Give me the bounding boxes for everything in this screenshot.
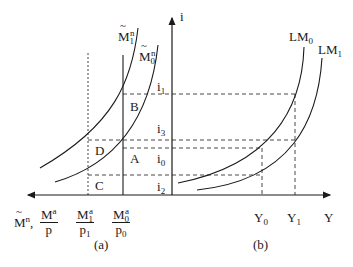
i-sub: 1	[161, 86, 166, 96]
label-i2: i2	[157, 180, 165, 193]
tick-num-sup: a	[89, 206, 93, 216]
label-lm0: LM0	[289, 30, 313, 43]
nominal-money-sup: n	[26, 214, 31, 224]
i-sub: 0	[161, 158, 166, 168]
label-i1: i1	[157, 80, 165, 93]
curve-base: LM	[318, 42, 338, 57]
i-sub: 3	[161, 128, 166, 138]
caption-panel-a: (a)	[94, 238, 108, 251]
point-d: D	[95, 144, 104, 157]
point-b: B	[130, 100, 139, 113]
tick-sub: 0	[263, 217, 268, 227]
frac-num-sup: a	[53, 206, 57, 216]
label-lm1: LM1	[318, 43, 342, 56]
curve-sub: 0	[309, 36, 314, 46]
curve-sup: n	[130, 28, 135, 38]
tick-base: Y	[287, 210, 296, 225]
left-axis-label: Mn,	[14, 216, 33, 229]
label-m1n: M1n	[118, 30, 135, 43]
curve-base: M	[139, 49, 151, 64]
tick-num-sup: a	[125, 206, 129, 216]
tick-m0a-p0: M0a p0	[112, 208, 130, 238]
frac-num: M	[41, 207, 53, 222]
tick-num: M	[113, 207, 125, 222]
point-a: A	[130, 152, 139, 165]
curve-base: M	[118, 29, 130, 44]
nominal-money-symbol: M	[14, 215, 26, 230]
lm1-curve	[197, 58, 322, 190]
curve-sub: 1	[338, 49, 343, 59]
tick-m1a-p1: M1a p1	[76, 208, 94, 238]
tick-y1: Y1	[287, 211, 301, 224]
caption-panel-b: (b)	[253, 238, 268, 251]
tick-num: M	[77, 207, 89, 222]
tick-base: Y	[254, 210, 263, 225]
horizontal-axis-label-y: Y	[324, 211, 333, 224]
vertical-axis-label: i	[180, 10, 184, 23]
label-i0: i0	[157, 152, 165, 165]
left-axis-fraction: Ma p	[40, 208, 58, 238]
tick-den-sub: 1	[86, 229, 91, 239]
lm0-curve	[178, 47, 304, 183]
tick-sub: 1	[296, 217, 301, 227]
label-i3: i3	[157, 122, 165, 135]
frac-den: p	[40, 223, 58, 237]
i-sub: 2	[161, 186, 166, 196]
tick-y0: Y0	[254, 211, 268, 224]
curve-base: LM	[289, 29, 309, 44]
label-m0n: M0n	[139, 50, 156, 63]
tick-den-sub: 0	[122, 229, 127, 239]
point-c: C	[95, 179, 104, 192]
money-market-lm-diagram: i Y Mn, Ma p M1a p1 M0a p0 Y0 Y1 (a) (b)…	[0, 0, 353, 267]
curve-sup: n	[151, 48, 156, 58]
